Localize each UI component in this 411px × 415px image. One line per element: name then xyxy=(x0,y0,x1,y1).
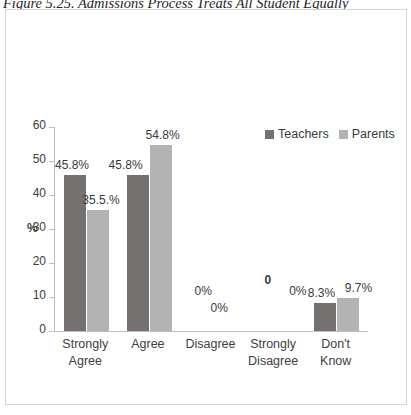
x-axis-line xyxy=(54,331,368,332)
bar-parents[interactable] xyxy=(150,145,172,331)
plot-area: 45.8%35.5.%45.8%54.8%0%0%00%8.3%9.7% xyxy=(54,127,367,331)
x-axis-label: Disagree xyxy=(179,336,242,353)
x-axis-label: Don'tKnow xyxy=(304,336,367,370)
bar-group: 45.8%54.8% xyxy=(117,127,180,331)
bar-group: 00% xyxy=(242,127,305,331)
y-tick-label: 0 xyxy=(39,322,46,336)
bar-value-label-parents: 0% xyxy=(197,301,241,315)
x-axis-label-line: Strongly xyxy=(242,336,305,353)
bar-value-label-teachers: 45.8% xyxy=(104,158,148,172)
x-axis-labels: StronglyAgreeAgreeDisagreeStronglyDisagr… xyxy=(54,336,368,384)
bar-group: 8.3%9.7% xyxy=(304,127,367,331)
bar-value-label-parents: 54.8% xyxy=(141,128,185,142)
bar-teachers[interactable] xyxy=(314,303,336,331)
y-tick-label: 50 xyxy=(33,152,46,166)
bar-parents[interactable] xyxy=(337,298,359,331)
x-axis-label: StronglyDisagree xyxy=(242,336,305,370)
bar-parents[interactable] xyxy=(87,210,109,331)
x-axis-label-line: Agree xyxy=(117,336,180,353)
x-axis-label-line: Disagree xyxy=(242,353,305,370)
bar-value-label-parents: 9.7% xyxy=(336,281,380,295)
x-axis-label-line: Know xyxy=(304,353,367,370)
y-axis-title: % xyxy=(27,221,38,235)
bar-teachers[interactable] xyxy=(127,175,149,331)
x-axis-label-line: Disagree xyxy=(179,336,242,353)
x-axis-label-line: Don't xyxy=(304,336,367,353)
chart-frame: TeachersParents 0102030405060 % 45.8%35.… xyxy=(5,9,407,405)
bar-value-label-teachers: 45.8% xyxy=(50,158,94,172)
y-tick-label: 40 xyxy=(33,186,46,200)
x-axis-label-line: Agree xyxy=(54,353,117,370)
x-axis-label-line: Strongly xyxy=(54,336,117,353)
bar-value-label-teachers: 0% xyxy=(181,284,225,298)
y-tick-label: 60 xyxy=(33,118,46,132)
bar-group: 0%0% xyxy=(179,127,242,331)
y-tick-label: 10 xyxy=(33,288,46,302)
y-tick-label: 20 xyxy=(33,254,46,268)
x-axis-label: Agree xyxy=(117,336,180,353)
x-axis-label: StronglyAgree xyxy=(54,336,117,370)
